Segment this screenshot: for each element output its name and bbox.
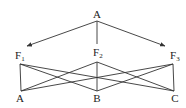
bottom-node-A: A xyxy=(16,92,24,104)
middle-node-F3: F3 xyxy=(170,49,180,63)
bottom-node-B: B xyxy=(93,92,100,104)
middle-node-F2: F2 xyxy=(93,46,103,60)
bottom-node-C: C xyxy=(171,92,178,104)
edge-F3-to-bB xyxy=(97,64,173,91)
edge-root-to-F1 xyxy=(27,21,97,46)
middle-node-F1: F1 xyxy=(15,49,25,63)
tree-diagram: A F1 F2 F3 A B C xyxy=(0,0,186,108)
edge-F3-to-bC xyxy=(173,64,174,91)
edge-root-to-F3 xyxy=(97,21,165,46)
edge-F1-to-bA xyxy=(20,64,21,91)
root-node-label: A xyxy=(93,8,101,20)
